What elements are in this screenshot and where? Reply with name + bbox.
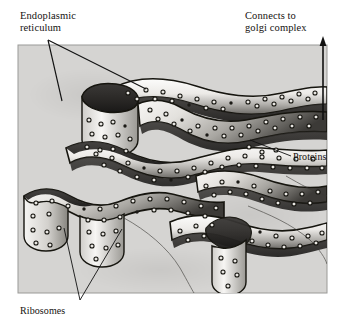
er-diagram-figure: Endoplasmic reticulum Connects to golgi … — [0, 0, 345, 323]
label-proteins: Proteins — [293, 151, 327, 163]
label-endoplasmic-reticulum: Endoplasmic reticulum — [20, 10, 76, 33]
label-connects-to-golgi-complex: Connects to golgi complex — [245, 10, 307, 33]
label-ribosomes: Ribosomes — [20, 305, 65, 317]
